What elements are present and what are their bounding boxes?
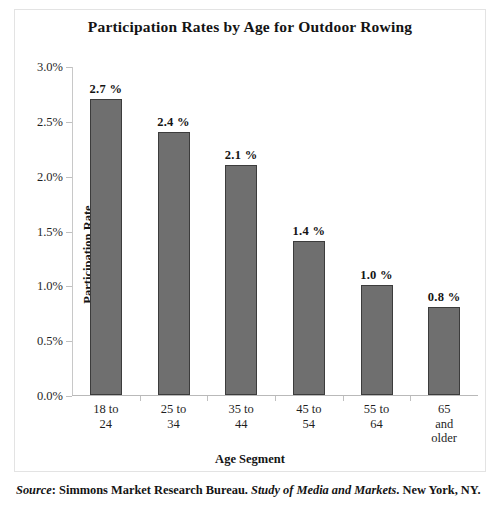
x-axis-tick-mark [275, 396, 276, 401]
x-axis-category-label: 45 to 54 [296, 402, 321, 431]
bar-value-label: 2.4 % [157, 115, 190, 130]
bar [90, 99, 122, 395]
bar [361, 285, 393, 395]
x-axis-category-label: 65 and older [431, 402, 457, 446]
y-axis-line [72, 67, 73, 396]
y-axis-tick-label: 1.5% [37, 224, 63, 239]
chart-title: Participation Rates by Age for Outdoor R… [14, 18, 486, 36]
x-axis-tick-mark [140, 396, 141, 401]
x-axis-category-label: 18 to 24 [93, 402, 118, 431]
x-axis-tick-mark [207, 396, 208, 401]
x-axis-title: Age Segment [14, 452, 486, 467]
x-axis-category-label: 35 to 44 [228, 402, 253, 431]
bar-value-label: 1.0 % [360, 268, 393, 283]
source-publisher: Simmons Market Research Bureau. [59, 483, 251, 497]
y-axis-tick-mark [66, 232, 72, 233]
y-axis-tick-mark [66, 286, 72, 287]
y-axis-tick-mark [66, 341, 72, 342]
source-colon: : [52, 483, 59, 497]
source-work-title: Study of Media and Markets [251, 483, 396, 497]
bar-value-label: 2.7 % [89, 82, 122, 97]
y-axis-tick-label: 2.5% [37, 114, 63, 129]
x-axis-tick-mark [410, 396, 411, 401]
plot-area: Participation Rate 0.0%0.5%1.0%1.5%2.0%2… [72, 67, 478, 396]
bar-value-label: 0.8 % [428, 290, 461, 305]
bar-value-label: 2.1 % [225, 148, 258, 163]
chart-figure: Participation Rates by Age for Outdoor R… [0, 0, 499, 505]
bar [158, 132, 190, 395]
bar [293, 241, 325, 395]
y-axis-tick-label: 2.0% [37, 169, 63, 184]
y-axis-tick-mark [66, 122, 72, 123]
bar-value-label: 1.4 % [292, 224, 325, 239]
y-axis-tick-label: 1.0% [37, 279, 63, 294]
y-axis-tick-mark [66, 177, 72, 178]
source-location: . New York, NY. [396, 483, 480, 497]
y-axis-tick-label: 3.0% [37, 60, 63, 75]
source-label: Source [16, 483, 52, 497]
x-axis-category-label: 25 to 34 [161, 402, 186, 431]
bar [225, 165, 257, 395]
source-note: Source: Simmons Market Research Bureau. … [16, 483, 481, 498]
x-axis-tick-mark [343, 396, 344, 401]
y-axis-tick-mark [66, 396, 72, 397]
y-axis-tick-label: 0.5% [37, 334, 63, 349]
x-axis-category-label: 55 to 64 [364, 402, 389, 431]
bar [428, 307, 460, 395]
y-axis-tick-mark [66, 67, 72, 68]
y-axis-tick-label: 0.0% [37, 389, 63, 404]
